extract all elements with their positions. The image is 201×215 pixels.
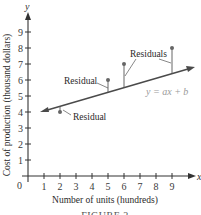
- data-point: [122, 62, 126, 66]
- svg-text:8: 8: [18, 43, 23, 54]
- y-axis-title: Cost of production (thousand dollars): [2, 34, 13, 176]
- svg-text:9: 9: [170, 181, 175, 192]
- data-point: [170, 46, 174, 50]
- svg-text:3: 3: [18, 123, 23, 134]
- svg-text:9: 9: [18, 27, 23, 38]
- chart: y x 0 1 2 3 4 5 6 7 8 9 1 2 3: [0, 0, 201, 215]
- svg-text:8: 8: [154, 181, 159, 192]
- y-axis-arrow-icon: [25, 12, 31, 20]
- svg-text:1: 1: [42, 181, 47, 192]
- x-axis-title: Number of units (hundreds): [52, 195, 158, 206]
- svg-text:7: 7: [18, 59, 23, 70]
- svg-text:2: 2: [18, 139, 23, 150]
- svg-text:5: 5: [18, 91, 23, 102]
- svg-text:7: 7: [138, 181, 143, 192]
- line-arrow-right-icon: [186, 66, 195, 72]
- x-tick-labels: 1 2 3 4 5 6 7 8 9: [42, 181, 175, 192]
- y-axis-letter: y: [24, 1, 30, 12]
- svg-text:5: 5: [106, 181, 111, 192]
- svg-text:6: 6: [122, 181, 127, 192]
- x-axis-letter: x: [196, 171, 201, 182]
- axes: [22, 18, 190, 182]
- origin-label: 0: [17, 180, 22, 191]
- y-tick-labels: 1 2 3 4 5 6 7 8 9: [18, 27, 23, 166]
- svg-text:1: 1: [18, 155, 23, 166]
- equation-label: y = ax + b: [145, 86, 188, 97]
- x-axis-arrow-icon: [188, 173, 196, 179]
- data-point: [106, 78, 110, 82]
- line-arrow-left-icon: [40, 107, 49, 112]
- residual-label-left: Residual: [73, 112, 107, 122]
- data-point: [58, 110, 62, 114]
- svg-text:3: 3: [74, 181, 79, 192]
- svg-text:2: 2: [58, 181, 63, 192]
- residuals-label-right: Residuals: [130, 49, 167, 59]
- svg-text:4: 4: [90, 181, 95, 192]
- residual-label-mid: Residual: [64, 76, 98, 86]
- figure-caption: FIGURE 2: [81, 210, 129, 215]
- svg-text:6: 6: [18, 75, 23, 86]
- svg-text:4: 4: [18, 107, 23, 118]
